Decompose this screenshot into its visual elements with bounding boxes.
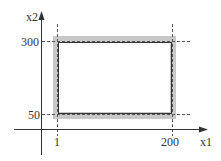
y-axis-arrow-icon xyxy=(39,11,45,20)
feasible-region-band xyxy=(53,36,176,119)
x-axis-label: x1 xyxy=(200,135,212,149)
y-tick-50: 50 xyxy=(28,108,40,122)
x-tick-200: 200 xyxy=(161,135,179,149)
y-tick-300: 300 xyxy=(21,35,39,49)
y-axis-label: x2 xyxy=(26,10,38,24)
region-inner-border xyxy=(59,43,172,114)
box-constraint-diagram: x2 x1 300 50 1 200 xyxy=(0,0,221,161)
x-axis-arrow-icon xyxy=(199,127,208,133)
x-tick-1: 1 xyxy=(54,135,60,149)
